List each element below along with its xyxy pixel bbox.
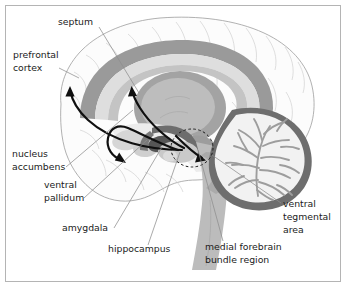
label-prefrontal-cortex-line2: cortex bbox=[13, 62, 43, 73]
mammillary-body bbox=[163, 151, 177, 162]
label-ventral-tegmental-area-line1: ventral bbox=[283, 198, 316, 209]
label-medial-forebrain-bundle-line1: medial forebrain bbox=[205, 241, 282, 252]
label-nucleus-accumbens-line2: accumbens bbox=[12, 161, 65, 172]
label-hippocampus: hippocampus bbox=[108, 243, 171, 254]
label-ventral-tegmental-area-line3: area bbox=[283, 224, 304, 235]
label-nucleus-accumbens-line1: nucleus bbox=[12, 148, 48, 159]
label-medial-forebrain-bundle-line2: bundle region bbox=[205, 254, 269, 265]
label-prefrontal-cortex-line1: prefrontal bbox=[13, 49, 59, 60]
brain-diagram-artwork: septum prefrontal cortex nucleus accumbe… bbox=[0, 0, 347, 288]
brain-reward-pathway-figure: septum prefrontal cortex nucleus accumbe… bbox=[0, 0, 347, 288]
label-septum: septum bbox=[58, 16, 93, 27]
label-ventral-tegmental-area-line2: tegmental bbox=[283, 211, 331, 222]
label-ventral-pallidum-line2: pallidum bbox=[44, 192, 84, 203]
label-amygdala: amygdala bbox=[62, 222, 108, 233]
label-ventral-pallidum-line1: ventral bbox=[44, 179, 77, 190]
